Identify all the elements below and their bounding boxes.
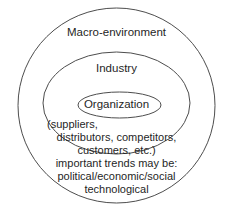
macro-trends-note: important trends may be: political/econo… [0,157,233,196]
trends-note-line-3: technological [0,183,233,196]
macro-environment-label: Macro-environment [0,26,233,40]
actors-note-line-2: distributors, competitors, [0,131,233,144]
trends-note-line-1: important trends may be: [0,157,233,170]
industry-label: Industry [0,62,233,76]
actors-note-line-1: (suppliers, [0,118,233,131]
industry-actors-note: (suppliers, distributors, competitors, c… [0,118,233,157]
concentric-environment-diagram: Macro-environment Industry Organization … [0,0,233,212]
actors-note-line-3: customers, etc.) [0,144,233,157]
organization-label: Organization [0,98,233,112]
trends-note-line-2: political/economic/social [0,170,233,183]
